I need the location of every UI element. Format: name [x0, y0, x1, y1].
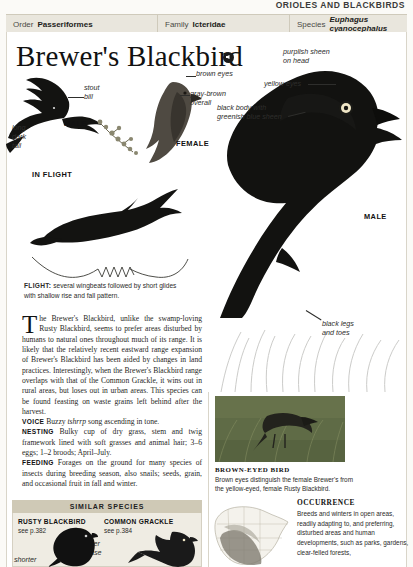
voice-song: tshrrp: [67, 417, 86, 426]
flight-label: FLIGHT:: [24, 282, 51, 289]
caption-male-flight: MALE: [64, 119, 87, 128]
nesting-line: NESTING Bulky cup of dry grass, stem and…: [22, 427, 202, 458]
feeding-label: FEEDING: [22, 459, 54, 466]
main-paragraph-text: he Brewer's Blackbird, unlike the swamp-…: [22, 314, 202, 416]
nesting-label: NESTING: [22, 428, 54, 435]
taxonomy-order: Order Passeriformes: [6, 15, 158, 33]
similar-species-header-text: SIMILAR SPECIES: [70, 503, 145, 510]
male-main-illustration: [196, 58, 411, 318]
leader-yellow-eyes: [308, 84, 336, 85]
order-label: Order: [13, 20, 33, 29]
running-head: ORIOLES AND BLACKBIRDS: [0, 0, 413, 14]
flight-caption: FLIGHT: several wingbeats followed by sh…: [24, 281, 189, 300]
species-label: Species: [297, 20, 325, 29]
running-head-text: ORIOLES AND BLACKBIRDS: [276, 0, 405, 10]
range-map: [208, 500, 294, 567]
family-value: Icteridae: [193, 20, 226, 29]
male-perched-silhouette: [30, 185, 190, 260]
field-guide-page: ORIOLES AND BLACKBIRDS Order Passeriform…: [0, 0, 413, 567]
label-purplish-sheen: purplish sheen on head: [283, 48, 330, 66]
feeding-line: FEEDING Forages on the ground for many s…: [22, 458, 202, 489]
voice-post: song ascending in tone.: [86, 417, 159, 426]
occurrence-text: Breeds and winters in open areas, readil…: [297, 509, 409, 558]
leader-gray-brown: [180, 95, 190, 96]
caption-in-flight: IN FLIGHT: [32, 170, 72, 179]
species-account-text: The Brewer's Blackbird, unlike the swamp…: [22, 314, 202, 489]
voice-line: VOICE Buzzy tshrrp song ascending in ton…: [22, 417, 202, 427]
berry-sprig-illustration: [93, 118, 145, 158]
taxonomy-bar: Order Passeriformes Family Icteridae Spe…: [6, 14, 407, 34]
rusty-blackbird-silhouette: [48, 524, 98, 567]
occurrence-section: OCCURRENCE Breeds and winters in open ar…: [297, 498, 409, 558]
grass-texture: [215, 300, 405, 392]
photo-caption-title: BROWN-EYED BIRD: [215, 466, 355, 473]
label-black-body: black body with greenish blue sheen: [217, 104, 282, 122]
voice-pre: Buzzy: [44, 417, 67, 426]
leader-stout-bill: [68, 97, 84, 98]
flight-path-diagram: [30, 255, 190, 283]
brown-eyed-bird-photo: [215, 396, 345, 462]
label-long-dark-tail: long dark tail: [12, 124, 26, 150]
voice-label: VOICE: [22, 418, 44, 425]
species-value: Euphagus cyanocephalus: [329, 15, 407, 33]
caption-male-main: MALE: [364, 212, 387, 221]
label-stout-bill: stout bill: [84, 84, 100, 102]
main-paragraph: The Brewer's Blackbird, unlike the swamp…: [22, 314, 202, 417]
photo-caption: BROWN-EYED BIRD Brown eyes distinguish t…: [215, 466, 355, 494]
leader-brown-eyes: [186, 76, 196, 77]
family-label: Family: [165, 20, 189, 29]
order-value: Passeriformes: [37, 20, 92, 29]
similar-species-1-page[interactable]: see p.382: [18, 527, 46, 534]
label-yellow-eyes: yellow eyes: [264, 80, 301, 89]
occurrence-title: OCCURRENCE: [297, 498, 409, 507]
common-grackle-silhouette: [128, 528, 198, 567]
taxonomy-family: Family Icteridae: [158, 15, 290, 33]
similar-species-header: SIMILAR SPECIES: [12, 500, 202, 513]
similar-species-2-name: COMMON GRACKLE: [104, 518, 173, 525]
taxonomy-species: Species Euphagus cyanocephalus: [290, 15, 407, 33]
label-shorter: shorter: [14, 556, 36, 565]
drop-cap: T: [22, 314, 39, 334]
photo-caption-text: Brown eyes distinguish the female Brewer…: [215, 475, 355, 494]
